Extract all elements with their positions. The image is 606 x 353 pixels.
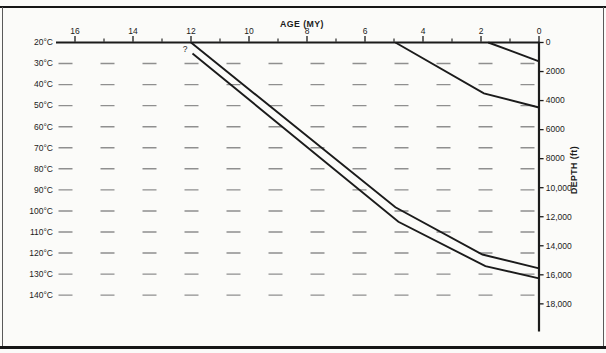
depth-tick-label-4000: 4000 [546,95,565,105]
age-tick-label-14: 14 [128,26,138,36]
uncertainty-question-mark: ? [183,44,188,54]
burial-curves-group [191,43,539,279]
age-tick-label-16: 16 [70,26,80,36]
isotherm-lines-group: 20°C30°C40°C50°C60°C70°C80°C90°C100°C110… [29,37,538,300]
depth-tick-label-0: 0 [546,37,551,47]
burial-history-chart: 20°C30°C40°C50°C60°C70°C80°C90°C100°C110… [0,0,606,353]
age-tick-label-12: 12 [186,26,196,36]
figure-page: 20°C30°C40°C50°C60°C70°C80°C90°C100°C110… [0,0,606,353]
depth-tick-label-8000: 8000 [546,153,565,163]
depth-tick-label-2000: 2000 [546,66,565,76]
depth-tick-label-6000: 6000 [546,124,565,134]
age-tick-label-6: 6 [363,26,368,36]
depth-tick-label-14000: 14,000 [546,241,572,251]
unit-base-burial-curve [193,53,540,278]
isotherm-label-70c: 70°C [34,143,53,153]
isotherm-label-20c: 20°C [34,37,53,47]
depth-tick-label-16000: 16,000 [546,270,572,280]
isotherm-label-110c: 110°C [30,227,53,237]
annotations-group: ? [183,44,188,54]
isotherm-label-140c: 140°C [29,290,53,300]
unit-top-burial-curve [191,43,539,269]
depth-tick-label-18000: 18,000 [546,299,572,309]
age-tick-label-0: 0 [537,26,542,36]
age-tick-label-10: 10 [244,26,254,36]
depth-tick-label-12000: 12,000 [546,212,572,222]
isotherm-label-50c: 50°C [34,100,53,110]
isotherm-label-60c: 60°C [34,122,53,132]
youngest-unit-burial-curve [488,43,539,62]
isotherm-label-30c: 30°C [34,58,53,68]
age-tick-label-4: 4 [421,26,426,36]
depth-axis-group: 0200040006000800010,00012,00014,00016,00… [539,37,572,331]
age-tick-label-2: 2 [479,26,484,36]
depth-axis-title: DEPTH (ft) [569,146,579,194]
isotherm-label-80c: 80°C [34,164,53,174]
isotherm-label-120c: 120°C [29,248,53,258]
age-axis-title: AGE (MY) [280,19,324,29]
isotherm-label-130c: 130°C [29,269,53,279]
isotherm-label-100c: 100°C [29,206,53,216]
isotherm-label-40c: 40°C [34,79,53,89]
isotherm-label-90c: 90°C [34,185,53,195]
younger-unit-burial-curve [395,43,539,108]
